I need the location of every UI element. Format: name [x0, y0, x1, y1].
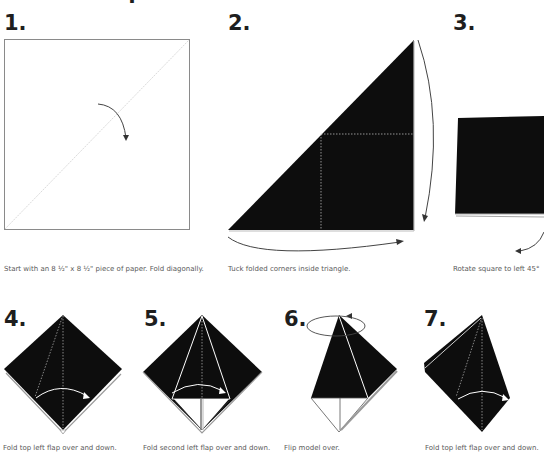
step-7-diagram — [0, 0, 544, 440]
step-5-caption: Fold second left flap over and down. — [143, 445, 270, 452]
step-4-caption: Fold top left flap over and down. — [3, 445, 117, 452]
step-6-caption: Flip model over. — [284, 445, 340, 452]
step-7-caption: Fold top left flap over and down. — [425, 445, 539, 452]
